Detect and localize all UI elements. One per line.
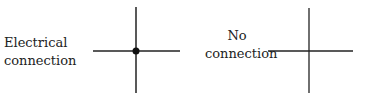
- wiring-symbols: [0, 0, 367, 100]
- crossing-symbol: [268, 8, 353, 93]
- junction-dot-icon: [133, 48, 140, 55]
- junction-symbol: [93, 7, 180, 93]
